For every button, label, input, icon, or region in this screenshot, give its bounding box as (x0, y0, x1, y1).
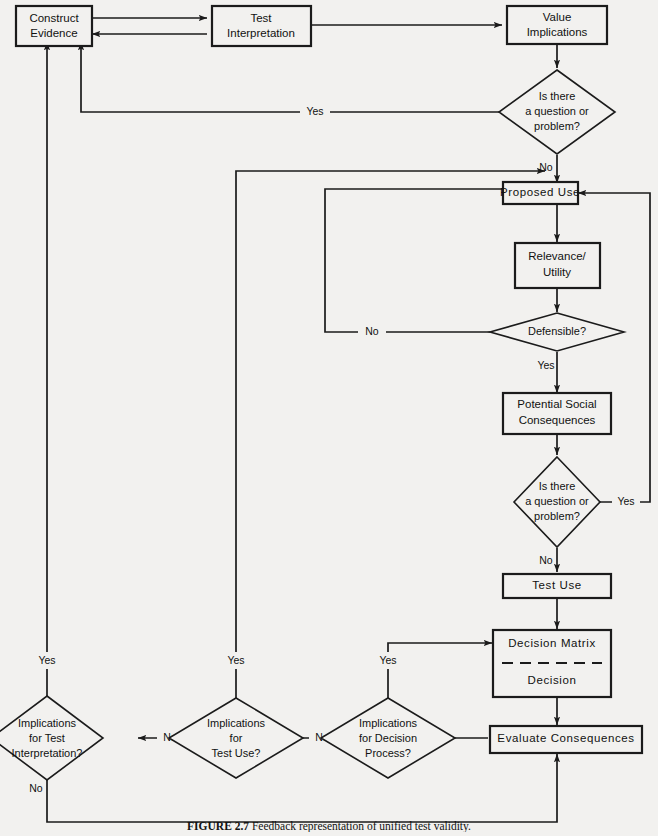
figure-page: Yes No No Yes Yes No Yes Yes Yes No No N… (0, 0, 658, 836)
node-proposed-use-line1: Proposed Use (500, 186, 580, 198)
node-question1-line3: problem? (534, 120, 580, 132)
node-impl-test-interpretation[interactable]: Implications for Test Interpretation? (0, 696, 103, 780)
edge-impl-test-use-yes-to-proposed-use (236, 171, 545, 680)
node-defensible[interactable]: Defensible? (490, 313, 624, 351)
node-test-use[interactable]: Test Use (503, 574, 611, 598)
node-decision-matrix-line1: Decision Matrix (508, 637, 596, 649)
node-test-interpretation[interactable]: Test Interpretation (212, 6, 311, 46)
node-impl-test-use-line2: for (230, 732, 243, 744)
node-relevance-utility-line2: Utility (543, 266, 571, 278)
node-question2-line2: a question or (525, 495, 589, 507)
edge-label-impl-test-interp-yes: Yes (38, 654, 55, 666)
edge-label-impl-test-interp-no: No (29, 782, 43, 794)
node-potential-social-line2: Consequences (519, 414, 596, 426)
node-impl-test-use-line1: Implications (207, 717, 266, 729)
node-value-implications[interactable]: Value Implications (507, 6, 607, 44)
node-impl-decision-line3: Process? (365, 747, 411, 759)
edge-impl-test-interp-no-to-evaluate (47, 754, 557, 822)
node-potential-social-consequences[interactable]: Potential Social Consequences (503, 393, 611, 434)
node-construct-evidence-line2: Evidence (30, 27, 77, 39)
edge-label-impl-decision-yes: Yes (379, 654, 396, 666)
node-impl-decision-line1: Implications (359, 717, 418, 729)
edge-label-question2-yes: Yes (617, 495, 634, 507)
edge-defensible-no-to-proposed-use (325, 189, 545, 332)
edge-label-question1-yes: Yes (306, 105, 323, 117)
edge-label-question2-no: No (539, 554, 553, 566)
node-defensible-line1: Defensible? (528, 325, 586, 337)
edge-label-defensible-no: No (365, 325, 379, 337)
flowchart-canvas: Yes No No Yes Yes No Yes Yes Yes No No N… (0, 0, 658, 836)
node-impl-test-interp-line3: Interpretation? (12, 747, 83, 759)
node-question2-line1: Is there (539, 480, 576, 492)
node-test-interpretation-line1: Test (250, 12, 272, 24)
node-value-implications-line2: Implications (527, 26, 588, 38)
figure-caption-label: FIGURE 2.7 (187, 820, 249, 832)
node-question1-line1: Is there (539, 90, 576, 102)
node-proposed-use[interactable]: Proposed Use (500, 182, 580, 204)
node-question2[interactable]: Is there a question or problem? (514, 457, 600, 547)
node-evaluate-consequences[interactable]: Evaluate Consequences (490, 726, 642, 753)
node-impl-test-interp-line2: for Test (29, 732, 65, 744)
edge-label-impl-test-use-yes: Yes (227, 654, 244, 666)
node-impl-test-use[interactable]: Implications for Test Use? (169, 698, 303, 778)
node-impl-decision-process[interactable]: Implications for Decision Process? (321, 698, 455, 778)
node-potential-social-line1: Potential Social (517, 398, 596, 410)
node-test-use-line1: Test Use (532, 579, 582, 591)
edge-impl-decision-yes-to-decision-matrix (388, 643, 492, 714)
edge-label-question1-no: No (539, 161, 553, 173)
node-test-interpretation-line2: Interpretation (227, 27, 295, 39)
node-value-implications-line1: Value (543, 11, 572, 23)
figure-caption-text: Feedback representation of unified test … (252, 820, 471, 832)
node-decision-matrix[interactable]: Decision Matrix Decision (493, 630, 611, 697)
edge-label-defensible-yes: Yes (537, 359, 554, 371)
figure-caption: FIGURE 2.7 Feedback representation of un… (0, 820, 658, 832)
edge-question1-yes-to-construct (81, 42, 499, 112)
node-question1-line2: a question or (525, 105, 589, 117)
node-relevance-utility-line1: Relevance/ (528, 250, 586, 262)
node-construct-evidence[interactable]: Construct Evidence (16, 6, 92, 46)
edge-question2-yes-to-proposed-use (578, 193, 650, 502)
node-question1[interactable]: Is there a question or problem? (499, 70, 615, 154)
node-construct-evidence-line1: Construct (29, 12, 79, 24)
node-impl-decision-line2: for Decision (359, 732, 417, 744)
node-evaluate-consequences-line1: Evaluate Consequences (497, 732, 634, 744)
node-relevance-utility[interactable]: Relevance/ Utility (515, 243, 600, 288)
node-impl-test-use-line3: Test Use? (212, 747, 261, 759)
node-question2-line3: problem? (534, 510, 580, 522)
node-impl-test-interp-line1: Implications (18, 717, 77, 729)
node-decision-matrix-line2: Decision (528, 674, 577, 686)
